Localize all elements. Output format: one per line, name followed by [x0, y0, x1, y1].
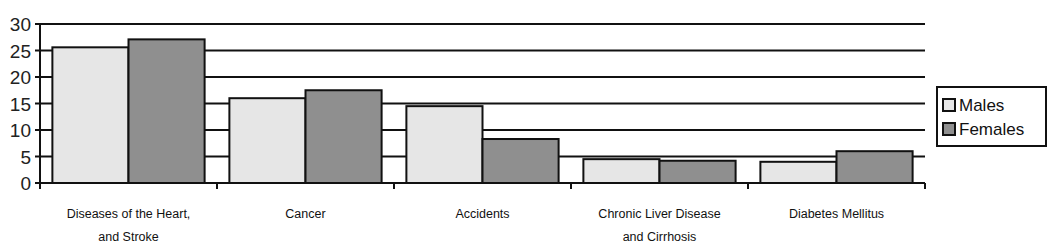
bar-females	[660, 161, 736, 183]
y-tick-label: 0	[20, 173, 31, 194]
bar-males	[760, 162, 836, 183]
legend-label-females: Females	[959, 120, 1024, 139]
x-category-label: Chronic Liver Disease	[598, 207, 720, 221]
x-axis: Diseases of the Heart,and StrokeCancerAc…	[40, 183, 925, 244]
legend-label-males: Males	[959, 96, 1004, 115]
y-axis: 051015202530	[10, 14, 40, 194]
bar-females	[306, 90, 382, 183]
x-category-label: and Cirrhosis	[623, 230, 697, 244]
bar-chart: 051015202530 Diseases of the Heart,and S…	[0, 0, 1055, 252]
y-tick-label: 30	[10, 14, 31, 35]
bar-males	[583, 159, 659, 183]
y-tick-label: 25	[10, 41, 31, 62]
bar-males	[229, 98, 305, 183]
bar-males	[406, 106, 482, 183]
y-tick-label: 15	[10, 94, 31, 115]
x-category-label: Accidents	[455, 207, 509, 221]
bar-females	[483, 139, 559, 183]
legend-swatch-females	[943, 123, 955, 135]
y-tick-label: 5	[20, 147, 31, 168]
bar-females	[837, 151, 913, 183]
x-category-label: Diabetes Mellitus	[789, 207, 884, 221]
bar-males	[52, 47, 128, 183]
bar-females	[129, 39, 205, 183]
x-category-label: and Stroke	[98, 230, 159, 244]
x-category-label: Diseases of the Heart,	[67, 207, 191, 221]
bars	[52, 39, 912, 183]
y-tick-label: 20	[10, 67, 31, 88]
y-tick-label: 10	[10, 120, 31, 141]
legend-swatch-males	[943, 99, 955, 111]
legend: MalesFemales	[937, 87, 1046, 146]
x-category-label: Cancer	[285, 207, 325, 221]
